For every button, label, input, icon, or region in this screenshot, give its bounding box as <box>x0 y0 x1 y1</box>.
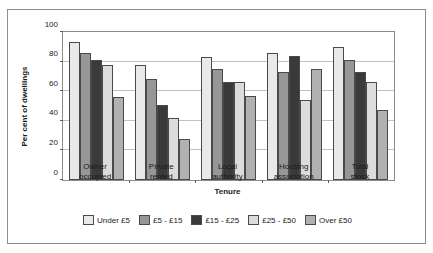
x-axis-category-label: Localauthority <box>194 162 260 182</box>
clipped-caption-text <box>0 0 433 7</box>
legend-item[interactable]: £15 - £25 <box>191 215 239 225</box>
legend-label: £15 - £25 <box>205 216 239 225</box>
legend-swatch <box>191 215 202 225</box>
plot-area: 020406080100 <box>62 31 395 181</box>
legend-label: Over £50 <box>319 216 352 225</box>
x-axis-title: Tenure <box>62 187 393 196</box>
x-axis-category-label: Owneroccupied <box>62 162 128 182</box>
legend-swatch <box>305 215 316 225</box>
chart-plot-wrapper: Per cent of dwellings 020406080100 Owner… <box>8 10 427 245</box>
legend-swatch <box>139 215 150 225</box>
legend-item[interactable]: £25 - £50 <box>248 215 296 225</box>
y-axis-title: Per cent of dwellings <box>20 47 29 167</box>
bar-group <box>262 32 328 180</box>
bar-group <box>129 32 195 180</box>
bar-group <box>328 32 394 180</box>
x-axis-category-label: Housingassociation <box>261 162 327 182</box>
legend-label: £25 - £50 <box>262 216 296 225</box>
y-axis-tick-label: 0 <box>54 167 58 176</box>
legend-item[interactable]: Over £50 <box>305 215 352 225</box>
legend-label: Under £5 <box>97 216 130 225</box>
bars-layer <box>63 32 394 180</box>
chart-figure-frame: Per cent of dwellings 020406080100 Owner… <box>7 9 426 244</box>
y-axis-tick-label: 60 <box>49 78 58 87</box>
bar <box>80 53 91 180</box>
bar-group <box>195 32 261 180</box>
legend-label: £5 - £15 <box>153 216 182 225</box>
y-axis-tick-label: 100 <box>45 19 58 28</box>
legend-swatch <box>248 215 259 225</box>
y-axis-tick-label: 40 <box>49 108 58 117</box>
bar <box>69 42 80 180</box>
bar <box>267 53 278 180</box>
chart-legend: Under £5£5 - £15£15 - £25£25 - £50Over £… <box>8 215 427 225</box>
x-axis-category-label: Privaterented <box>128 162 194 182</box>
y-axis-tick-label: 20 <box>49 137 58 146</box>
bar-group <box>63 32 129 180</box>
x-axis-category-label: Totalstock <box>327 162 393 182</box>
y-axis-tick-label: 80 <box>49 49 58 58</box>
legend-swatch <box>83 215 94 225</box>
bar <box>333 47 344 180</box>
legend-item[interactable]: Under £5 <box>83 215 130 225</box>
legend-item[interactable]: £5 - £15 <box>139 215 182 225</box>
